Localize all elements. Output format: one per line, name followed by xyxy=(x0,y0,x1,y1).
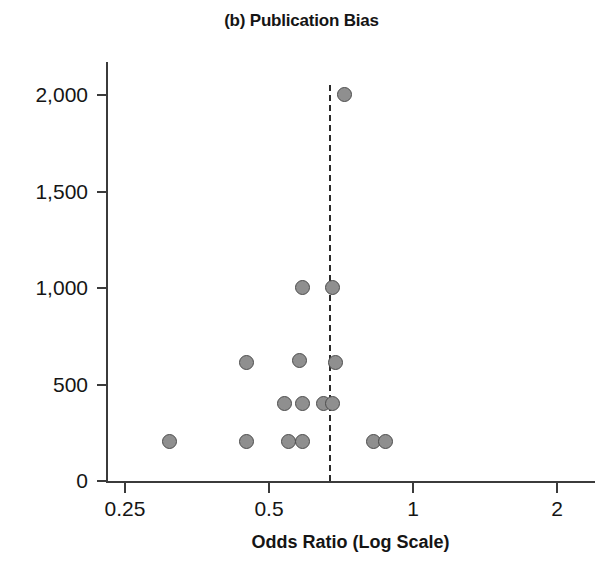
data-point xyxy=(328,355,343,370)
data-point xyxy=(325,396,340,411)
x-axis-tick xyxy=(412,483,414,493)
y-axis-tick xyxy=(97,480,107,482)
x-axis-tick-label: 0.25 xyxy=(80,497,170,521)
publication-bias-funnel-plot: (b) Publication Bias 05001,0001,5002,000… xyxy=(0,0,603,580)
x-axis-line xyxy=(106,481,595,483)
x-axis-tick xyxy=(124,483,126,493)
data-point xyxy=(239,434,254,449)
y-axis-tick-label: 0 xyxy=(0,469,88,493)
x-axis-tick xyxy=(268,483,270,493)
x-axis-tick xyxy=(556,483,558,493)
x-axis-title: Odds Ratio (Log Scale) xyxy=(106,532,595,553)
data-point xyxy=(239,355,254,370)
y-axis-line xyxy=(106,62,108,483)
data-point xyxy=(281,434,296,449)
y-axis-tick xyxy=(97,384,107,386)
y-axis-tick-label: 1,000 xyxy=(0,276,88,300)
x-axis-tick-label: 0.5 xyxy=(224,497,314,521)
data-point xyxy=(325,280,340,295)
x-axis-tick-label: 1 xyxy=(368,497,458,521)
y-axis-tick xyxy=(97,94,107,96)
y-axis-tick xyxy=(97,191,107,193)
y-axis-tick-label: 1,500 xyxy=(0,180,88,204)
y-axis-tick xyxy=(97,287,107,289)
data-point xyxy=(295,396,310,411)
plot-area: 05001,0001,5002,000 0.250.512 xyxy=(0,0,603,580)
data-point xyxy=(292,353,307,368)
data-point xyxy=(295,280,310,295)
data-point xyxy=(337,87,352,102)
data-point xyxy=(162,434,177,449)
data-point xyxy=(295,434,310,449)
y-axis-tick-label: 500 xyxy=(0,373,88,397)
data-point xyxy=(277,396,292,411)
data-point xyxy=(378,434,393,449)
x-axis-tick-label: 2 xyxy=(512,497,602,521)
y-axis-tick-label: 2,000 xyxy=(0,83,88,107)
